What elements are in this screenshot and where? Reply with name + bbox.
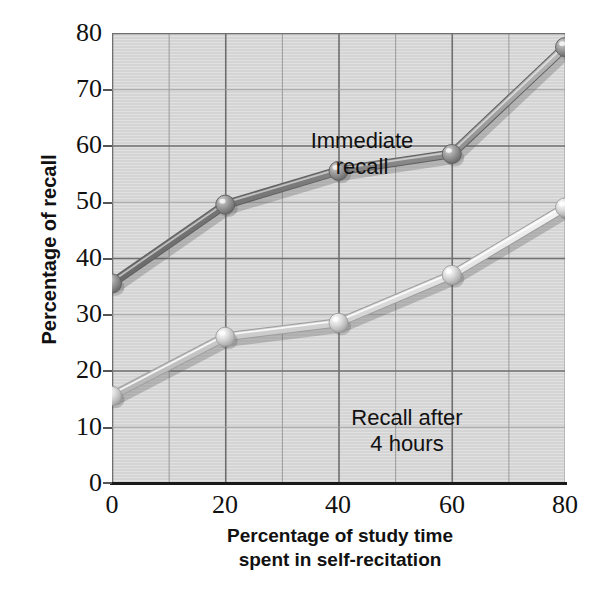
data-point-marker	[329, 313, 348, 332]
y-tickmark-60	[103, 145, 112, 147]
y-tick-10: 10	[42, 414, 102, 440]
x-axis-line	[110, 482, 567, 485]
data-point-marker	[216, 327, 235, 346]
y-tickmark-0	[103, 482, 112, 484]
y-tickmark-10	[103, 427, 112, 429]
x-axis-title-line1: Percentage of study time	[110, 524, 570, 548]
y-tickmark-70	[103, 89, 112, 91]
annotation-delayed-line2: 4 hours	[307, 431, 507, 457]
y-tickmark-40	[103, 258, 112, 260]
annotation-immediate-line1: Immediate	[262, 128, 462, 154]
x-tick-80: 80	[535, 492, 595, 518]
annotation-delayed-recall: Recall after 4 hours	[307, 405, 507, 457]
x-axis-title-line2: spent in self-recitation	[110, 548, 570, 572]
y-tickmark-20	[103, 370, 112, 372]
annotation-immediate-line2: recall	[262, 154, 462, 180]
annotation-delayed-line1: Recall after	[307, 405, 507, 431]
plot-area: Immediate recall Recall after 4 hours	[112, 33, 565, 483]
y-tick-80: 80	[42, 20, 102, 46]
x-tick-0: 0	[82, 492, 142, 518]
x-tick-20: 20	[195, 492, 255, 518]
y-tickmark-50	[103, 202, 112, 204]
chart-figure: Immediate recall Recall after 4 hours 80…	[0, 0, 600, 591]
x-tick-40: 40	[308, 492, 368, 518]
y-axis-title: Percentage of recall	[38, 135, 61, 365]
data-point-marker	[442, 265, 461, 284]
y-tick-70: 70	[42, 76, 102, 102]
data-point-marker	[216, 195, 235, 214]
y-tickmark-30	[103, 314, 112, 316]
annotation-immediate-recall: Immediate recall	[262, 128, 462, 180]
x-axis-title: Percentage of study time spent in self-r…	[110, 524, 570, 572]
x-tick-60: 60	[422, 492, 482, 518]
